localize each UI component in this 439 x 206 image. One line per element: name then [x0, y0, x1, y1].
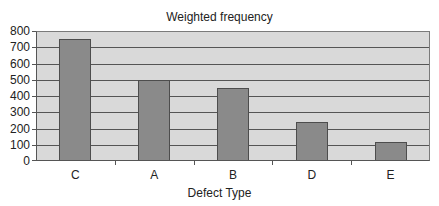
x-tick-mark	[351, 161, 352, 165]
gridline	[37, 47, 429, 48]
y-tick-label: 600	[0, 58, 30, 70]
x-tick-label: D	[292, 168, 332, 182]
bar-c	[59, 39, 91, 160]
x-tick-label: B	[213, 168, 253, 182]
x-tick-mark	[272, 161, 273, 165]
x-axis-title: Defect Type	[0, 186, 439, 200]
gridline	[37, 64, 429, 65]
y-tick-mark	[32, 80, 36, 81]
gridline	[37, 80, 429, 81]
x-tick-label: A	[134, 168, 174, 182]
y-tick-mark	[32, 47, 36, 48]
y-tick-mark	[32, 160, 36, 161]
y-tick-mark	[32, 64, 36, 65]
y-tick-label: 0	[0, 155, 30, 167]
bar-a	[138, 80, 170, 160]
y-tick-mark	[32, 31, 36, 32]
y-tick-mark	[32, 112, 36, 113]
chart-title: Weighted frequency	[0, 10, 439, 24]
y-tick-label: 400	[0, 90, 30, 102]
plot-area	[36, 31, 430, 161]
y-tick-mark	[32, 129, 36, 130]
y-tick-label: 200	[0, 123, 30, 135]
y-tick-label: 700	[0, 41, 30, 53]
x-tick-mark	[115, 161, 116, 165]
bar-b	[217, 88, 249, 160]
y-tick-label: 500	[0, 74, 30, 86]
x-tick-mark	[194, 161, 195, 165]
y-tick-label: 800	[0, 25, 30, 37]
y-tick-mark	[32, 96, 36, 97]
bar-d	[296, 122, 328, 160]
y-tick-label: 300	[0, 106, 30, 118]
x-tick-label: E	[371, 168, 411, 182]
y-tick-label: 100	[0, 139, 30, 151]
y-tick-mark	[32, 145, 36, 146]
x-tick-label: C	[55, 168, 95, 182]
bar-e	[375, 142, 407, 161]
